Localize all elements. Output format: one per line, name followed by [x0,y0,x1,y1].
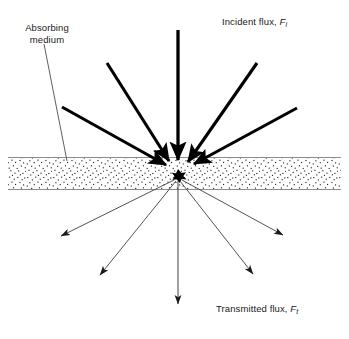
scattered-rays-group [61,180,283,304]
incident-rays-group [62,30,297,165]
incident-flux-text: Incident flux, [222,16,279,27]
scattered-ray-left [100,181,176,275]
transmitted-flux-subscript: t [296,308,298,315]
incident-ray-far-right [194,108,297,164]
absorbing-medium-leader-line [44,44,67,161]
scattered-ray-right [180,181,253,274]
scattering-diagram-figure: Absorbing medium Incident flux, Fi Trans… [0,0,349,339]
incident-flux-label: Incident flux, Fi [222,16,332,29]
transmitted-flux-label: Transmitted flux, Ft [216,303,341,316]
incident-ray-left [107,63,169,161]
incident-flux-subscript: i [285,21,287,28]
transmitted-flux-text: Transmitted flux, [216,303,290,314]
absorbing-medium-label: Absorbing medium [10,22,84,45]
incident-ray-far-left [62,107,166,165]
diagram-vector-layer [0,0,349,339]
